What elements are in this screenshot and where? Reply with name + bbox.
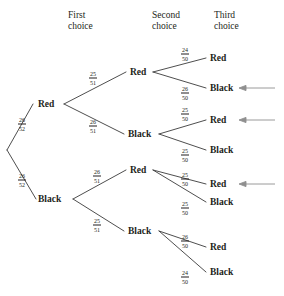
denominator: 50	[181, 209, 189, 216]
numerator: 25	[93, 218, 101, 226]
denominator: 51	[89, 127, 97, 134]
numerator: 26	[18, 173, 26, 181]
denominator: 50	[181, 156, 189, 163]
node-third-choice-brr: Red	[210, 179, 226, 189]
node-second-choice-red-black: Black	[128, 129, 151, 139]
numerator: 26	[18, 117, 26, 125]
edge-rr-red	[153, 58, 206, 72]
node-third-choice-bbr: Red	[210, 242, 226, 252]
node-first-choice-black: Black	[38, 194, 61, 204]
edge-br-red	[153, 170, 206, 184]
probability-rr-to-red: 24 50	[181, 47, 189, 62]
denominator: 52	[18, 125, 26, 132]
denominator: 52	[18, 181, 26, 188]
probability-root-to-black: 26 52	[18, 173, 26, 188]
probability-bb-to-black: 24 50	[181, 270, 189, 285]
node-third-choice-rbb: Black	[210, 145, 233, 155]
probability-bb-to-red: 26 50	[181, 234, 189, 249]
column-header-first-choice: First choice	[68, 10, 93, 32]
arrow-marker	[239, 181, 275, 186]
node-third-choice-rrb: Black	[210, 83, 233, 93]
probability-br-to-red: 25 50	[181, 172, 189, 187]
numerator: 25	[89, 71, 97, 79]
numerator: 25	[181, 148, 189, 156]
node-third-choice-brb: Black	[210, 197, 233, 207]
edge-rr-black	[153, 72, 206, 88]
numerator: 25	[181, 107, 189, 115]
denominator: 50	[181, 242, 189, 249]
node-second-choice-black-black: Black	[128, 226, 151, 236]
denominator: 50	[181, 115, 189, 122]
probability-rr-to-black: 26 50	[181, 86, 189, 101]
column-header-third-choice: Third choice	[214, 10, 239, 32]
numerator: 24	[181, 47, 189, 55]
numerator: 26	[181, 234, 189, 242]
column-header-second-choice: Second choice	[152, 10, 180, 32]
numerator: 26	[89, 119, 97, 127]
numerator: 25	[181, 201, 189, 209]
node-third-choice-rbr: Red	[210, 115, 226, 125]
edge-br-black	[153, 170, 206, 202]
numerator: 26	[93, 169, 101, 177]
node-second-choice-red-red: Red	[130, 67, 146, 77]
node-third-choice-bbb: Black	[210, 267, 233, 277]
probability-red-to-black: 26 51	[89, 119, 97, 134]
edge-rb-red	[159, 120, 206, 134]
probability-black-to-black: 25 51	[93, 218, 101, 233]
node-second-choice-black-red: Red	[130, 165, 146, 175]
denominator: 50	[181, 55, 189, 62]
probability-root-to-red: 26 52	[18, 117, 26, 132]
denominator: 51	[93, 226, 101, 233]
numerator: 24	[181, 270, 189, 278]
denominator: 50	[181, 180, 189, 187]
denominator: 51	[89, 79, 97, 86]
denominator: 51	[93, 177, 101, 184]
probability-black-to-red: 26 51	[93, 169, 101, 184]
node-first-choice-red: Red	[38, 99, 54, 109]
probability-red-to-red: 25 51	[89, 71, 97, 86]
probability-rb-to-red: 25 50	[181, 107, 189, 122]
denominator: 50	[181, 278, 189, 285]
denominator: 50	[181, 94, 189, 101]
numerator: 26	[181, 86, 189, 94]
arrow-marker	[239, 117, 275, 122]
arrow-marker	[239, 85, 275, 90]
probability-br-to-black: 25 50	[181, 201, 189, 216]
tree-edges	[0, 0, 284, 296]
node-third-choice-rrr: Red	[210, 53, 226, 63]
numerator: 25	[181, 172, 189, 180]
probability-tree-diagram: First choice Second choice Third choice …	[0, 0, 284, 296]
probability-rb-to-black: 25 50	[181, 148, 189, 163]
